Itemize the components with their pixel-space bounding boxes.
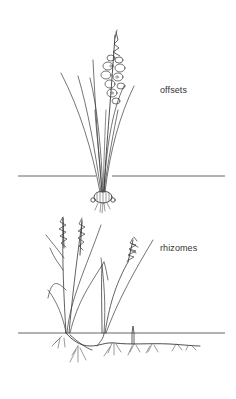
leaves [61,60,134,192]
flower-spike [101,30,125,104]
grass-stem-middle [101,258,105,333]
grass-clump-right [105,237,153,333]
rhizome-network [52,326,200,362]
grass-clump-left [46,218,108,333]
illustration-canvas [0,0,236,399]
seed-spike [78,218,85,255]
label-rhizomes: rhizomes [160,244,197,253]
offsets-plant-illustration [18,30,225,213]
rhizomes-plant-illustration [18,217,225,362]
plant-propagation-diagram: offsets rhizomes [0,0,236,399]
corm-with-offsets [91,191,115,213]
label-offsets: offsets [160,86,187,95]
